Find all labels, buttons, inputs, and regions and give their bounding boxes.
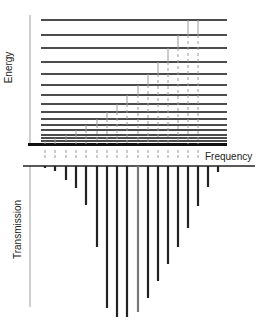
energy-axis-label: Energy (3, 48, 14, 88)
energy-transmission-diagram (0, 0, 269, 327)
frequency-axis-label: Frequency (205, 151, 252, 162)
frequency-ticks (45, 150, 198, 158)
energy-levels (41, 20, 227, 141)
transmission-axis-label: Transmission (12, 195, 23, 265)
absorption-spikes (45, 166, 218, 317)
